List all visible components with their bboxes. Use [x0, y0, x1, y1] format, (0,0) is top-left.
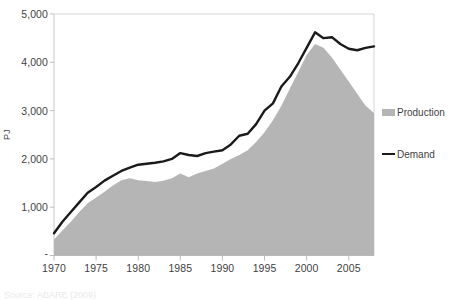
chart-container: PJ 5,000 4,000 3,000 2,000 1,000 - 19701… [0, 0, 452, 300]
x-tick-label: 1975 [76, 262, 116, 274]
y-axis-ticks [50, 14, 54, 256]
chart-legend: Production Demand [382, 104, 445, 188]
x-axis-ticks [54, 256, 349, 261]
legend-item-production[interactable]: Production [382, 104, 445, 120]
y-tick-label: 3,000 [4, 105, 48, 117]
x-tick-label: 2005 [329, 262, 369, 274]
x-tick-label: 1990 [202, 262, 242, 274]
line-swatch-icon [382, 153, 395, 155]
y-tick-label: 4,000 [4, 56, 48, 68]
area-swatch-icon [382, 109, 395, 116]
x-tick-label: 2000 [287, 262, 327, 274]
legend-item-demand[interactable]: Demand [382, 146, 445, 162]
legend-label-production: Production [397, 107, 445, 118]
series-production-area [54, 44, 374, 256]
y-tick-label: 2,000 [4, 153, 48, 165]
y-axis-tick-labels: 5,000 4,000 3,000 2,000 1,000 - [0, 0, 48, 300]
y-tick-label: 1,000 [4, 201, 48, 213]
y-tick-label: - [4, 247, 48, 259]
y-tick-label: 5,000 [4, 8, 48, 20]
x-tick-label: 1995 [245, 262, 285, 274]
x-tick-label: 1985 [160, 262, 200, 274]
x-tick-label: 1970 [34, 262, 74, 274]
source-caption: Source: ABARE (2009) [4, 290, 96, 300]
x-tick-label: 1980 [118, 262, 158, 274]
legend-label-demand: Demand [397, 149, 435, 160]
